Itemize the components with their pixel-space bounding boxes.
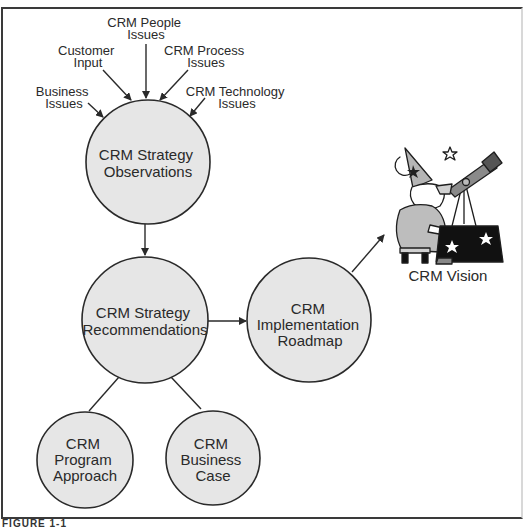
svg-text:CRM Strategy Recommendat: CRM Strategy Recommendations: [82, 304, 207, 338]
input-label-process: CRM Process Issues: [164, 43, 248, 70]
wizard-with-telescope-icon: [395, 147, 503, 264]
vision-label: CRM Vision: [409, 267, 488, 284]
line-recommendations-to-program: [89, 377, 119, 411]
node-program-approach: CRM Program Approach: [37, 412, 133, 508]
crm-diagram: Business Issues Customer Input CRM Peopl…: [0, 0, 525, 527]
node-roadmap: CRM Implementation Roadmap: [247, 258, 371, 382]
node-recommendations: CRM Strategy Recommendations: [82, 257, 208, 383]
arrow-roadmap-to-vision: [352, 235, 384, 272]
input-label-business: Business Issues: [36, 84, 92, 111]
node-business-case: CRM Business Case: [166, 411, 260, 505]
star-icon: [443, 147, 457, 160]
arrow-technology-to-observations: [190, 98, 205, 116]
input-label-people: CRM People Issues: [107, 15, 184, 42]
line-recommendations-to-business-case: [171, 377, 201, 409]
input-label-technology: CRM Technology Issues: [186, 84, 288, 111]
arrow-business-to-observations: [88, 103, 103, 117]
arrow-customer-to-observations: [103, 70, 131, 100]
node-observations: CRM Strategy Observations: [86, 100, 210, 224]
svg-text:CRM Strategy Observation: CRM Strategy Observations: [99, 146, 197, 180]
input-label-customer: Customer Input: [58, 43, 118, 70]
arrow-process-to-observations: [160, 70, 188, 100]
figure-caption: FIGURE 1-1: [2, 519, 67, 527]
